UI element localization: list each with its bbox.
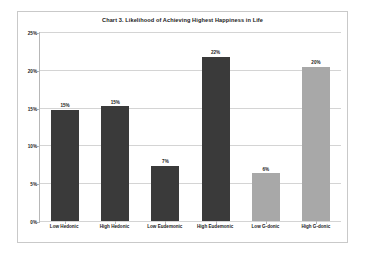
bar-slot: 7% [140,32,190,221]
y-axis-tick-label: 20% [28,68,37,73]
bar-value-label: 20% [311,60,320,65]
bar-slot: 22% [191,32,241,221]
y-axis-tick-label: 15% [28,106,37,111]
x-axis-category-label: Low G-donic [240,224,290,229]
x-axis-category-label: Low Eudemonic [140,224,190,229]
x-axis-labels: Low HedonicHigh HedonicLow EudemonicHigh… [39,224,341,229]
x-axis-category-label: High G-donic [291,224,341,229]
bar[interactable]: 6% [252,173,280,221]
bar[interactable]: 15% [101,106,129,221]
x-axis-category-label: High Hedonic [89,224,139,229]
bar-slot: 20% [291,32,341,221]
bars-group: 15%15%7%22%6%20% [40,32,341,221]
bar-value-label: 15% [60,103,69,108]
bar-slot: 15% [90,32,140,221]
bar-slot: 6% [241,32,291,221]
bar-slot: 15% [40,32,90,221]
bar[interactable]: 20% [302,67,330,221]
y-axis-tick-mark [37,222,40,223]
bar[interactable]: 7% [151,166,179,221]
bar-value-label: 7% [162,159,169,164]
bar[interactable]: 15% [51,110,79,221]
bar-value-label: 15% [111,100,120,105]
y-axis-tick-label: 0% [30,220,37,225]
plot-area: 25%20%15%10%5%0% 15%15%7%22%6%20% [39,32,341,222]
bar-value-label: 22% [211,50,220,55]
x-axis-category-label: High Eudemonic [190,224,240,229]
bar[interactable]: 22% [202,57,230,221]
chart-title: Chart 3. Likelihood of Achieving Highest… [18,17,347,23]
gridline: 0% [40,221,341,222]
y-axis-tick-label: 25% [28,31,37,36]
x-axis-category-label: Low Hedonic [39,224,89,229]
chart-container: Chart 3. Likelihood of Achieving Highest… [17,11,348,243]
y-axis-tick-label: 5% [30,182,37,187]
y-axis-tick-label: 10% [28,144,37,149]
bar-value-label: 6% [262,167,269,172]
